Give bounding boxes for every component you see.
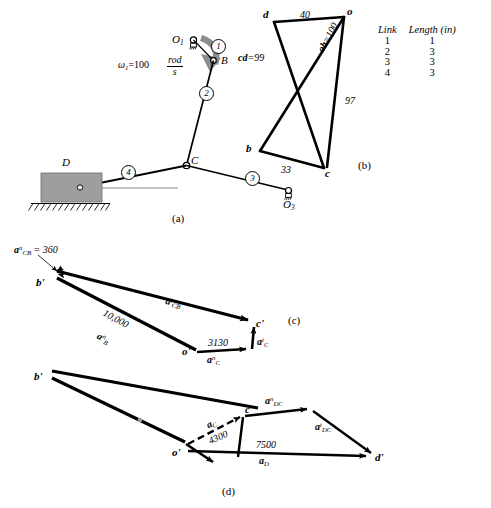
vp-label-b: b	[246, 143, 252, 154]
vp-label-d: d	[263, 9, 269, 20]
apd-edge-anB	[52, 378, 185, 442]
ground-hatch	[29, 204, 111, 211]
vp-label-do: 40	[300, 10, 310, 20]
label-omega-units: rods	[167, 55, 183, 77]
link-number-3: 3	[245, 171, 260, 186]
apd-label-atDC: atDC	[315, 422, 331, 434]
apd-label-aD-value: 7500	[256, 440, 276, 450]
slider-pin-D	[77, 185, 82, 190]
vp-label-o: o	[347, 6, 353, 17]
apd-label-dp: d'	[375, 452, 384, 463]
apd-label-anDC: anDC	[265, 396, 283, 408]
apd-label-op: o'	[172, 447, 181, 458]
apc-label-bp: b'	[36, 277, 45, 288]
vp-label-oc: 97	[345, 96, 355, 106]
legend-link-value: 4	[372, 68, 403, 79]
label-O3: O3	[283, 199, 295, 212]
caption-d: (d)	[222, 486, 235, 497]
apd-edge-aD	[188, 451, 366, 456]
slider-block-D	[41, 173, 102, 202]
label-D: D	[62, 157, 70, 168]
ground-pivot-O1	[190, 37, 197, 50]
apd-label-aD: aD	[259, 456, 269, 468]
link-number-2: 2	[199, 86, 214, 101]
apc-label-op: o'	[182, 346, 191, 357]
apc-edge-anC	[197, 349, 246, 352]
caption-c: (c)	[288, 315, 300, 326]
legend-length-value: 3	[403, 68, 462, 79]
apd-label-bp: b'	[34, 371, 43, 382]
link-number-4: 4	[121, 165, 136, 180]
apc-edge-bp-cp	[57, 271, 248, 320]
apd-edge-cp-down	[238, 417, 243, 457]
apc-label-anCB: anCB = 360	[14, 245, 58, 257]
link-2-coupler	[187, 61, 214, 166]
apc-label-cp: c'	[256, 318, 264, 329]
apd-midpoint-dot	[138, 418, 143, 423]
apc-label-anC: anC	[207, 355, 220, 367]
label-omega1: ω1=100	[118, 60, 149, 72]
label-O1: O1	[172, 34, 184, 47]
link-length-legend: Link Length (in) 11233343	[372, 24, 462, 79]
link-number-1: 1	[211, 39, 226, 54]
apc-leader-anCB	[38, 255, 57, 271]
apc-edge-atC	[252, 327, 254, 349]
label-C: C	[191, 155, 198, 166]
accel-polygon-d	[52, 371, 371, 462]
apc-label-anC-value: 3130	[208, 338, 228, 348]
apc-arrowhead-to-bp	[58, 274, 120, 289]
caption-b: (b)	[358, 160, 371, 171]
vp-label-bc: 33	[281, 165, 291, 175]
apd-edge-top	[52, 371, 258, 408]
legend-row: 43	[372, 68, 462, 79]
caption-a: (a)	[172, 213, 184, 224]
kinematics-figure: O1 B C O3 D ω1=100 rods 1 2 3 4 (a) d o …	[0, 0, 491, 508]
vp-label-c: c	[325, 168, 330, 179]
link-3-rocker	[187, 166, 289, 191]
vp-edge-bc	[260, 151, 324, 168]
apd-edge-op-down	[186, 444, 213, 462]
apd-label-cp: c'	[245, 404, 253, 415]
vp-label-cd: cd=99	[238, 53, 264, 63]
apc-label-atC: atC	[257, 337, 268, 349]
apd-edge-cp-anDC	[245, 409, 307, 416]
label-B: B	[221, 55, 228, 66]
